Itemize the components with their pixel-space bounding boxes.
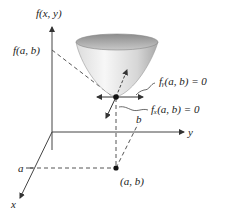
x-axis <box>20 132 52 198</box>
point-label: (a, b) <box>120 176 144 187</box>
paraboloid-rim <box>76 34 158 50</box>
tangent-x-line <box>106 97 116 118</box>
b-projection-line <box>116 124 138 168</box>
fy-condition-label: fᵧ(a, b) = 0 <box>159 76 207 87</box>
fx-condition-label: fₓ(a, b) = 0 <box>151 104 199 115</box>
y-axis-label: y <box>188 127 193 138</box>
critical-point <box>113 94 119 100</box>
fy-leader <box>136 83 155 95</box>
ab-point <box>113 165 118 170</box>
b-tick-label: b <box>136 114 142 125</box>
vertical-axis-label: f(x, y) <box>36 8 62 19</box>
f-value-label: f(a, b) <box>13 45 40 56</box>
fx-leader <box>119 107 148 111</box>
x-axis-label: x <box>11 199 16 210</box>
a-tick-label: a <box>18 163 24 174</box>
